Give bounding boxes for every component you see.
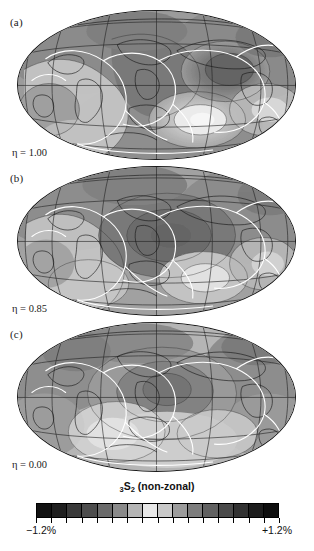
colorbar-cell-12 <box>219 504 234 517</box>
colorbar-title-main: S <box>124 480 131 492</box>
panel-a-eta: η = 1.00 <box>12 147 47 158</box>
colorbar-cell-1 <box>52 504 67 517</box>
colorbar-tick-8 <box>158 518 159 523</box>
colorbar-tick-0 <box>36 518 37 523</box>
colorbar-tick-14 <box>249 518 250 523</box>
colorbar-tick-5 <box>112 518 113 523</box>
colorbar-tick-9 <box>173 518 174 523</box>
colorbar-tick-6 <box>127 518 128 523</box>
colorbar-cell-10 <box>188 504 203 517</box>
colorbar-tick-10 <box>188 518 189 523</box>
panel-a-map <box>17 10 296 160</box>
colorbar-cell-11 <box>203 504 218 517</box>
panel-c-eta: η = 0.00 <box>12 459 47 470</box>
colorbar-min-label: −1.2% <box>26 524 56 536</box>
colorbar-title-suffix: (non-zonal) <box>135 480 194 492</box>
colorbar-scale <box>36 503 279 518</box>
map-ellipse-a <box>17 10 296 160</box>
colorbar-block: 3S2 (non-zonal) −1.2% +1.2% <box>0 480 314 546</box>
colorbar-cell-9 <box>173 504 188 517</box>
colorbar-cell-6 <box>128 504 143 517</box>
colorbar-max-label: +1.2% <box>262 524 292 536</box>
plate-boundaries-b <box>18 167 295 316</box>
colorbar-tick-13 <box>233 518 234 523</box>
colorbar-tick-2 <box>66 518 67 523</box>
colorbar-tick-7 <box>142 518 143 523</box>
panel-c-map <box>17 322 296 472</box>
map-ellipse-b <box>17 166 296 316</box>
colorbar-cell-15 <box>264 504 278 517</box>
panel-b-map <box>17 166 296 316</box>
colorbar-cell-3 <box>82 504 97 517</box>
colorbar-tick-3 <box>82 518 83 523</box>
map-ellipse-c <box>17 322 296 472</box>
colorbar-tick-15 <box>264 518 265 523</box>
panel-a: (a) <box>0 8 314 164</box>
figure-root: (a) <box>0 0 314 551</box>
colorbar-tick-1 <box>51 518 52 523</box>
colorbar-tick-11 <box>203 518 204 523</box>
panel-b-eta: η = 0.85 <box>12 303 47 314</box>
colorbar-ticks <box>36 518 279 524</box>
colorbar-cell-4 <box>98 504 113 517</box>
colorbar-cell-2 <box>67 504 82 517</box>
colorbar-tick-16 <box>279 518 280 523</box>
colorbar-cell-5 <box>113 504 128 517</box>
colorbar-cell-7 <box>143 504 158 517</box>
plate-boundaries-a <box>18 11 295 160</box>
colorbar-cell-0 <box>37 504 52 517</box>
colorbar-cell-14 <box>249 504 264 517</box>
panel-c: (c) <box>0 320 314 476</box>
colorbar-title: 3S2 (non-zonal) <box>0 480 314 494</box>
colorbar-tick-12 <box>218 518 219 523</box>
colorbar-cell-13 <box>234 504 249 517</box>
colorbar-tick-4 <box>97 518 98 523</box>
colorbar-cell-8 <box>158 504 173 517</box>
panel-b: (b) <box>0 164 314 320</box>
plate-boundaries-c <box>18 323 295 472</box>
